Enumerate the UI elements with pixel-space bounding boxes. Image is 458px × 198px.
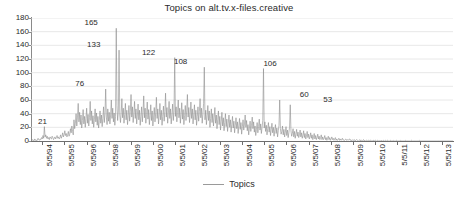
x-tick-label-5-5-94: 5/5/94 [46, 144, 54, 166]
x-tick-label-5-5-01: 5/5/01 [179, 144, 187, 166]
x-tick-label-5-5-04: 5/5/04 [246, 144, 254, 166]
point-label-108: 108 [174, 58, 187, 66]
x-axis-tick-labels: 5/5/945/5/955/5/965/5/985/5/995/5/005/5/… [0, 0, 458, 198]
x-tick-mark [309, 142, 310, 145]
x-tick-label-5-5-98: 5/5/98 [112, 144, 120, 166]
x-tick-label-5-5-05: 5/5/05 [268, 144, 276, 166]
point-label-133: 133 [87, 41, 100, 49]
x-tick-mark [375, 142, 376, 145]
x-tick-label-5-5-95: 5/5/95 [68, 144, 76, 166]
x-tick-mark [264, 142, 265, 145]
point-label-122: 122 [142, 49, 155, 57]
chart-legend: Topics [0, 180, 458, 189]
x-tick-label-5-5-12: 5/5/12 [423, 144, 431, 166]
x-tick-mark [220, 142, 221, 145]
x-tick-label-5-5-11: 5/5/11 [401, 144, 409, 166]
x-tick-mark [131, 142, 132, 145]
point-label-76: 76 [75, 80, 84, 88]
point-label-53: 53 [323, 96, 332, 104]
x-tick-label-5-5-03: 5/5/03 [223, 144, 231, 166]
x-tick-mark [175, 142, 176, 145]
legend-label-topics: Topics [229, 180, 255, 189]
x-tick-mark [109, 142, 110, 145]
point-label-106: 106 [263, 60, 276, 68]
x-tick-mark [286, 142, 287, 145]
x-tick-mark [242, 142, 243, 145]
x-tick-mark [397, 142, 398, 145]
point-label-60: 60 [300, 91, 309, 99]
chart-container: Topics on alt.tv.x-files.creative 020406… [0, 0, 458, 198]
x-tick-label-5-5-13: 5/5/13 [445, 144, 453, 166]
x-tick-mark [198, 142, 199, 145]
x-tick-mark [442, 142, 443, 145]
x-tick-label-5-5-00: 5/5/00 [157, 144, 165, 166]
point-label-165: 165 [84, 19, 97, 27]
x-tick-mark [87, 142, 88, 145]
x-tick-label-5-5-02: 5/5/02 [201, 144, 209, 166]
point-label-21: 21 [38, 118, 47, 126]
x-tick-label-5-5-10: 5/5/10 [379, 144, 387, 166]
x-tick-mark [42, 142, 43, 145]
x-tick-label-5-5-07: 5/5/07 [312, 144, 320, 166]
x-tick-mark [153, 142, 154, 145]
x-tick-mark [353, 142, 354, 145]
x-tick-label-5-5-08: 5/5/08 [334, 144, 342, 166]
x-tick-label-5-5-96: 5/5/96 [90, 144, 98, 166]
x-tick-mark [331, 142, 332, 145]
x-tick-label-5-5-99: 5/5/99 [134, 144, 142, 166]
x-tick-mark [420, 142, 421, 145]
x-tick-mark [64, 142, 65, 145]
legend-line-swatch [203, 184, 224, 185]
x-tick-label-5-5-09: 5/5/09 [357, 144, 365, 166]
x-tick-label-5-5-06: 5/5/06 [290, 144, 298, 166]
